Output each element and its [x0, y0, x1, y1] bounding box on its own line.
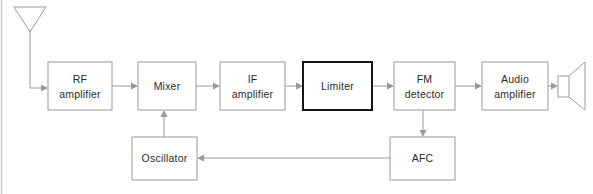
block-audio-amplifier-label-line2: amplifier: [494, 88, 536, 100]
antenna-icon: [14, 7, 46, 88]
block-oscillator-label-line1: Oscillator: [142, 152, 188, 164]
block-fm-detector-label-line1: FM: [417, 73, 433, 85]
block-oscillator[interactable]: Oscillator: [132, 137, 197, 180]
block-limiter[interactable]: Limiter: [303, 62, 372, 110]
block-audio-amplifier-rect[interactable]: [482, 62, 548, 110]
block-afc[interactable]: AFC: [390, 137, 455, 180]
wire-afc-to-oscillator: [197, 155, 390, 162]
block-fm-detector[interactable]: FM detector: [394, 62, 455, 110]
block-mixer[interactable]: Mixer: [138, 62, 196, 110]
block-if-amplifier-label-line2: amplifier: [232, 88, 274, 100]
block-rf-amplifier-label-line2: amplifier: [59, 88, 101, 100]
wire-mixer-to-if-amplifier: [196, 83, 220, 90]
block-rf-amplifier[interactable]: RF amplifier: [48, 62, 112, 110]
wire-antenna-to-rf-amplifier: [30, 85, 48, 92]
block-if-amplifier[interactable]: IF amplifier: [220, 62, 285, 110]
block-fm-detector-label-line2: detector: [405, 88, 445, 100]
block-fm-detector-rect[interactable]: [394, 62, 455, 110]
fm-receiver-block-diagram: RF amplifier Mixer IF amplifier Limiter …: [0, 0, 593, 194]
wire-fm-detector-to-audio-amplifier: [455, 83, 482, 90]
block-afc-label-line1: AFC: [412, 152, 434, 164]
wire-rf-amplifier-to-mixer: [112, 83, 138, 90]
block-rf-amplifier-rect[interactable]: [48, 62, 112, 110]
block-audio-amplifier[interactable]: Audio amplifier: [482, 62, 548, 110]
block-audio-amplifier-label-line1: Audio: [501, 73, 529, 85]
block-mixer-label-line1: Mixer: [154, 80, 181, 92]
wire-fm-detector-to-afc: [420, 110, 427, 137]
block-rf-amplifier-label-line1: RF: [73, 73, 87, 85]
wire-limiter-to-fm-detector: [372, 83, 394, 90]
block-if-amplifier-label-line1: IF: [248, 73, 258, 85]
loudspeaker-icon: [558, 62, 585, 110]
diagram-canvas: RF amplifier Mixer IF amplifier Limiter …: [0, 0, 593, 194]
wire-oscillator-to-mixer: [161, 110, 168, 137]
wire-audio-amplifier-to-loudspeaker: [548, 83, 558, 90]
block-if-amplifier-rect[interactable]: [220, 62, 285, 110]
block-limiter-label-line1: Limiter: [321, 80, 354, 92]
wire-if-amplifier-to-limiter: [285, 83, 303, 90]
